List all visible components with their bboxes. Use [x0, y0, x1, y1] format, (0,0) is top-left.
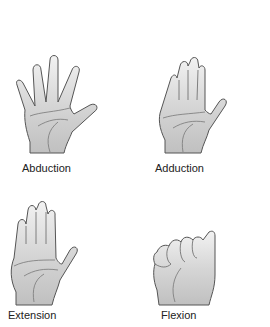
- hand-adduction-illustration: [135, 30, 270, 160]
- panel-flexion: Flexion: [135, 180, 270, 327]
- label-flexion: Flexion: [161, 309, 196, 321]
- panel-extension: Extension: [0, 180, 135, 327]
- label-extension: Extension: [8, 309, 56, 321]
- hand-extension-illustration: [0, 180, 135, 310]
- hand-abduction-illustration: [0, 30, 135, 160]
- label-abduction: Abduction: [22, 162, 71, 174]
- panel-adduction: Adduction: [135, 30, 270, 180]
- label-adduction: Adduction: [155, 162, 204, 174]
- hand-flexion-illustration: [135, 180, 270, 310]
- panel-abduction: Abduction: [0, 30, 135, 180]
